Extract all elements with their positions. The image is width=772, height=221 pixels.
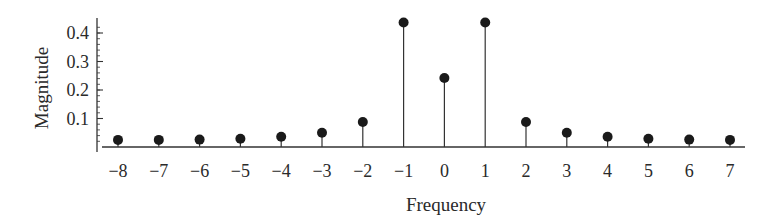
stem-marker [276, 132, 286, 142]
stem-point [439, 73, 449, 147]
stem-point [358, 117, 368, 147]
stem-chart: 0.10.20.30.4 −8−7−6−5−4−3−2−101234567 Ma… [0, 0, 772, 221]
stem-point [725, 135, 735, 147]
stems [113, 17, 735, 147]
stem-marker [235, 134, 245, 144]
stem-point [276, 132, 286, 147]
y-axis-label: Magnitude [31, 47, 52, 129]
x-tick-label: 6 [685, 161, 694, 181]
stem-point [154, 135, 164, 147]
stem-point [195, 135, 205, 147]
stem-point [480, 17, 490, 147]
stem-point [603, 132, 613, 147]
x-tick-label: −6 [190, 161, 209, 181]
stem-point [317, 128, 327, 147]
x-tick-label: 7 [726, 161, 735, 181]
stem-marker [154, 135, 164, 145]
x-axis: −8−7−6−5−4−3−2−101234567 [102, 147, 745, 181]
x-tick-label: −3 [312, 161, 331, 181]
stem-point [684, 135, 694, 147]
x-tick-label: −4 [272, 161, 291, 181]
x-tick-label: 0 [440, 161, 449, 181]
stem-point [521, 117, 531, 147]
x-tick-label: 1 [481, 161, 490, 181]
x-tick-label: 2 [522, 161, 531, 181]
y-axis: 0.10.20.30.4 [67, 18, 104, 152]
stem-point [235, 134, 245, 147]
stem-marker [480, 17, 490, 27]
y-tick-label: 0.4 [67, 23, 90, 43]
x-tick-label: −7 [149, 161, 168, 181]
x-tick-label: −5 [231, 161, 250, 181]
stem-marker [195, 135, 205, 145]
stem-marker [562, 128, 572, 138]
x-tick-label: −8 [108, 161, 127, 181]
stem-marker [317, 128, 327, 138]
stem-marker [684, 135, 694, 145]
stem-point [562, 128, 572, 147]
stem-point [113, 135, 123, 147]
stem-marker [603, 132, 613, 142]
y-tick-label: 0.3 [67, 52, 90, 72]
stem-point [643, 134, 653, 147]
x-tick-label: 4 [603, 161, 612, 181]
x-tick-label: −2 [353, 161, 372, 181]
stem-marker [643, 134, 653, 144]
stem-marker [358, 117, 368, 127]
stem-marker [521, 117, 531, 127]
x-axis-label: Frequency [406, 194, 487, 215]
stem-marker [113, 135, 123, 145]
stem-marker [399, 17, 409, 27]
y-tick-label: 0.2 [67, 80, 90, 100]
y-tick-label: 0.1 [67, 109, 90, 129]
stem-marker [725, 135, 735, 145]
stem-marker [439, 73, 449, 83]
x-tick-label: 3 [562, 161, 571, 181]
x-tick-label: 5 [644, 161, 653, 181]
stem-point [399, 17, 409, 147]
x-tick-label: −1 [394, 161, 413, 181]
